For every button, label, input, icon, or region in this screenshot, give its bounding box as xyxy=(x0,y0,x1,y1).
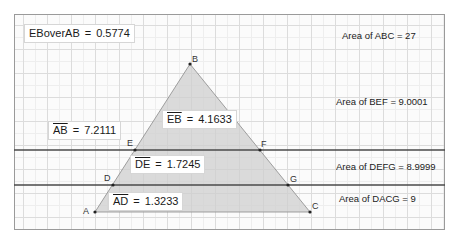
segment-AD-value: 1.3233 xyxy=(145,195,179,207)
point-label-A: A xyxy=(83,206,89,216)
segment-AD-eq: = xyxy=(133,195,139,207)
point-label-C: C xyxy=(312,201,319,211)
area-BEF-label: Area of BEF = 9.0001 xyxy=(336,96,428,107)
point-label-B: B xyxy=(192,54,198,64)
segment-EB-eq: = xyxy=(187,113,193,125)
point-E[interactable] xyxy=(133,148,136,151)
segment-DE-box[interactable]: DE=1.7245 xyxy=(130,155,205,174)
segment-EB-value: 4.1633 xyxy=(198,113,232,125)
segment-AB-name: AB xyxy=(53,124,68,136)
segment-AD-box[interactable]: AD=1.3233 xyxy=(108,192,183,211)
segment-AB-eq: = xyxy=(73,124,79,136)
segment-AD-name: AD xyxy=(113,195,128,207)
point-A[interactable] xyxy=(93,210,96,213)
point-label-D: D xyxy=(104,173,111,183)
area-DEFG-label: Area of DEFG = 8.9999 xyxy=(336,161,436,172)
segment-DE-value: 1.7245 xyxy=(167,158,201,170)
point-label-E: E xyxy=(127,138,133,148)
segment-AB-box[interactable]: AB=7.2111 xyxy=(48,121,121,140)
ratio-eq: = xyxy=(85,27,91,39)
point-label-F: F xyxy=(261,139,267,149)
ratio-value: 0.5774 xyxy=(96,27,130,39)
segment-AB-value: 7.2111 xyxy=(84,124,116,136)
ratio-EBoverAB-box[interactable]: EBoverAB=0.5774 xyxy=(24,24,135,43)
segment-DE-name: DE xyxy=(135,158,150,170)
area-DACG-label: Area of DACG = 9 xyxy=(339,193,416,204)
segment-EB-name: EB xyxy=(167,113,182,125)
point-D[interactable] xyxy=(111,183,114,186)
segment-EB-box[interactable]: EB=4.1633 xyxy=(162,110,237,129)
ratio-name: EBoverAB xyxy=(29,27,80,39)
segment-DE-eq: = xyxy=(155,158,161,170)
point-label-G: G xyxy=(290,174,297,184)
area-ABC-label: Area of ABC = 27 xyxy=(342,30,416,41)
